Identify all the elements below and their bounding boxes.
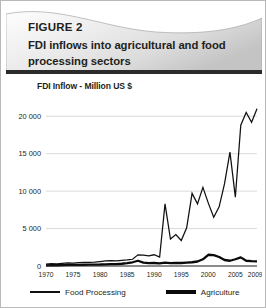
series-line-agriculture	[46, 255, 257, 266]
y-tick-label: 15 000	[18, 149, 41, 158]
figure-header-band: FIGURE 2 FDI inflows into agricultural a…	[6, 6, 262, 72]
line-chart-svg: 05 00010 00015 00020 000 197019751980198…	[6, 76, 262, 304]
chart-legend: Food Processing Agriculture	[6, 284, 262, 300]
x-tick-label: 1980	[93, 271, 108, 278]
x-tick-label: 1985	[120, 271, 135, 278]
chart-plot-area: FDI Inflow - Million US $ 05 00010 00015…	[6, 76, 262, 304]
x-tick-label: 1995	[174, 271, 189, 278]
figure-title: FDI inflows into agricultural and food p…	[28, 38, 250, 69]
series-group	[46, 109, 257, 266]
gridlines-group	[46, 116, 257, 228]
legend-item-food-processing[interactable]: Food Processing	[30, 288, 126, 297]
x-tick-label: 1970	[39, 271, 54, 278]
figure-label: FIGURE 2	[28, 20, 250, 35]
series-line-food-processing	[46, 109, 257, 264]
y-tick-labels-group: 05 00010 00015 00020 000	[18, 112, 41, 271]
header-divider-rule	[6, 70, 262, 74]
x-tick-label: 2009p	[248, 271, 262, 279]
figure-card: FIGURE 2 FDI inflows into agricultural a…	[0, 0, 266, 308]
legend-label-food-processing: Food Processing	[65, 288, 126, 297]
x-tick-label: 2005	[228, 271, 243, 278]
y-tick-label: 5 000	[23, 224, 42, 233]
figure-header-text: FIGURE 2 FDI inflows into agricultural a…	[28, 20, 250, 69]
x-tick-labels-group: 197019751980198519901995200020052009p	[39, 271, 262, 279]
legend-swatch-agriculture	[166, 290, 196, 294]
x-tick-label: 1990	[147, 271, 162, 278]
y-tick-label: 20 000	[18, 112, 41, 121]
y-tick-label: 10 000	[18, 187, 41, 196]
legend-item-agriculture[interactable]: Agriculture	[166, 288, 240, 297]
y-tick-label: 0	[37, 262, 41, 271]
x-tick-label: 2000	[201, 271, 216, 278]
legend-swatch-food-processing	[30, 291, 60, 293]
legend-label-agriculture: Agriculture	[201, 288, 240, 297]
x-tick-label: 1975	[66, 271, 81, 278]
